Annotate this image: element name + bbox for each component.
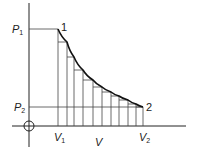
- v1-label: V1: [54, 131, 65, 144]
- v2-label: V2: [139, 131, 150, 144]
- process-curve: [58, 29, 143, 107]
- point-1-label: 1: [61, 21, 67, 33]
- pv-diagram: 1 2 P1 P2 V1 V V2: [0, 0, 197, 151]
- v-axis-label: V: [95, 136, 104, 148]
- strip-rectangles: [58, 29, 143, 126]
- p1-label: P1: [12, 23, 23, 36]
- point-2-label: 2: [146, 101, 152, 113]
- p2-label: P2: [14, 101, 25, 114]
